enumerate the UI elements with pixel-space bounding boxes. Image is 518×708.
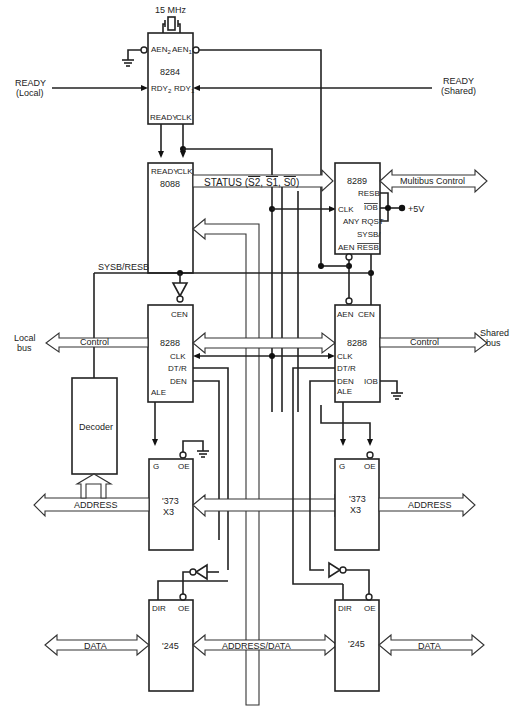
pin-local-den: DEN bbox=[170, 377, 187, 386]
chip-8289-label: 8289 bbox=[347, 176, 367, 186]
inverter-icon bbox=[196, 565, 207, 579]
chip-8284-label: 8284 bbox=[160, 67, 180, 77]
ready-shared-sublabel: (Shared) bbox=[441, 86, 476, 96]
sysb-resb-label: SYSB/RESB bbox=[98, 262, 149, 272]
pin-8284-ready: READY bbox=[150, 113, 178, 122]
ready-local-sublabel: (Local) bbox=[16, 88, 44, 98]
shared-data-label: DATA bbox=[418, 641, 441, 651]
pin-8289-resb-bar: RESB bbox=[357, 243, 379, 252]
decoder-label: Decoder bbox=[79, 422, 113, 432]
local-latch-count-label: X3 bbox=[163, 507, 174, 517]
pin-shared-den: DEN bbox=[337, 377, 354, 386]
pin-8289-sysb: SYSB/ bbox=[357, 230, 381, 239]
shared-latch-chip-label: '373 bbox=[349, 494, 366, 504]
pin-local-cen: CEN bbox=[171, 310, 188, 319]
shared-latch-count-label: X3 bbox=[350, 505, 361, 515]
pin-local-ale: ALE bbox=[151, 388, 166, 397]
chip-8088-label: 8088 bbox=[160, 179, 180, 189]
pin-8289-aen: AEN bbox=[338, 243, 355, 252]
pin-8289-iob: IOB bbox=[364, 203, 378, 212]
pin-8088-ready: READY bbox=[151, 167, 179, 176]
inverter-icon bbox=[173, 283, 187, 296]
pin-shared-cen: CEN bbox=[358, 310, 375, 319]
chip-8288-shared-label: 8288 bbox=[347, 338, 367, 348]
status-to-8288-arrow bbox=[193, 333, 335, 353]
local-bus-sublabel: bus bbox=[17, 343, 32, 353]
shared-address-label: ADDRESS bbox=[408, 500, 452, 510]
pin-8289-resb: RESB bbox=[358, 189, 380, 198]
local-control-label: Control bbox=[80, 337, 109, 347]
pin-local-latch-g: G bbox=[153, 462, 159, 471]
local-address-label: ADDRESS bbox=[74, 500, 118, 510]
pin-shared-ale: ALE bbox=[337, 387, 352, 396]
pin-8088-clk: CLK bbox=[177, 167, 193, 176]
internal-address-arrow bbox=[193, 495, 346, 516]
ready-shared-label: READY bbox=[443, 76, 474, 86]
local-data-label: DATA bbox=[84, 641, 107, 651]
shared-bus-sublabel: bus bbox=[486, 338, 501, 348]
pin-shared-latch-oe: OE bbox=[364, 462, 376, 471]
inverter-icon bbox=[329, 563, 340, 577]
pin-shared-aen: AEN bbox=[337, 310, 354, 319]
ground-icon bbox=[122, 60, 134, 66]
plus-5v-label: +5V bbox=[408, 204, 424, 214]
local-latch-chip-label: '373 bbox=[162, 496, 179, 506]
pin-shared-245-oe: OE bbox=[364, 604, 376, 613]
pin-local-dtr: DT/R bbox=[168, 364, 187, 373]
status-bus-label: STATUS (S2, S1, S0) bbox=[204, 177, 299, 188]
pin-local-245-oe: OE bbox=[178, 604, 190, 613]
pin-shared-latch-g: G bbox=[339, 462, 345, 471]
pin-8289-clk: CLK bbox=[338, 205, 354, 214]
crystal-frequency-label: 15 MHz bbox=[155, 5, 187, 15]
ground-icon bbox=[197, 451, 209, 457]
pin-8289-any-rqst: ANY RQST bbox=[343, 217, 384, 226]
local-bus-label: Local bbox=[14, 333, 36, 343]
pin-shared-245-dir: DIR bbox=[338, 604, 352, 613]
chip-8288-local-label: 8288 bbox=[160, 338, 180, 348]
address-data-label: ADDRESS/DATA bbox=[222, 641, 291, 651]
pin-local-clk: CLK bbox=[170, 352, 186, 361]
pin-local-245-dir: DIR bbox=[152, 604, 166, 613]
shared-bus-label: Shared bbox=[480, 328, 509, 338]
bus-interface-diagram: 15 MHz 8284 AEN2 AEN1 RDY2 RDY1 READY CL… bbox=[0, 0, 518, 708]
pin-shared-dtr: DT/R bbox=[337, 364, 356, 373]
crystal-icon bbox=[163, 17, 180, 33]
address-data-bus-trunk bbox=[193, 219, 259, 705]
multibus-control-label: Multibus Control bbox=[400, 176, 465, 186]
local-245-chip-label: '245 bbox=[162, 641, 179, 651]
pin-local-latch-oe: OE bbox=[178, 462, 190, 471]
shared-control-label: Control bbox=[410, 337, 439, 347]
shared-245-chip-label: '245 bbox=[348, 639, 365, 649]
decoder-address-arrow bbox=[77, 474, 111, 498]
ready-local-label: READY bbox=[15, 78, 46, 88]
pin-8284-clk: CLK bbox=[176, 113, 192, 122]
pin-shared-iob: IOB bbox=[364, 377, 378, 386]
ground-icon bbox=[391, 393, 403, 399]
pin-shared-clk: CLK bbox=[337, 352, 353, 361]
